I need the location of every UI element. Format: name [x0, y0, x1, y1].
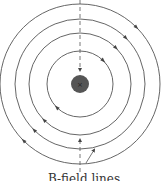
- radius-arrow-icon: [86, 150, 94, 163]
- into-page-symbol: ×: [77, 81, 83, 89]
- field-diagram: ×: [0, 0, 168, 181]
- diagram-caption: B-field lines: [0, 172, 168, 181]
